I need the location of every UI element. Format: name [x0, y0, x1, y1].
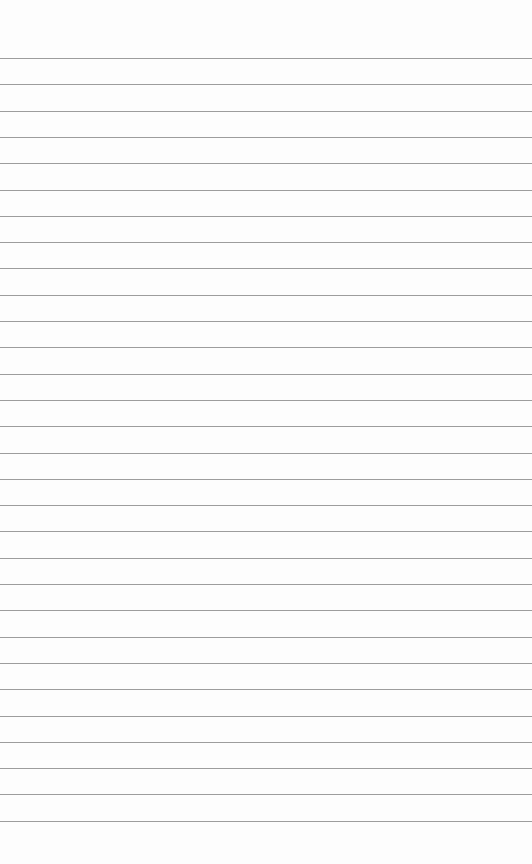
ruled-line: [0, 374, 532, 375]
ruled-line: [0, 426, 532, 427]
ruled-line: [0, 768, 532, 769]
ruled-line: [0, 268, 532, 269]
ruled-line: [0, 216, 532, 217]
ruled-line: [0, 716, 532, 717]
ruled-line: [0, 190, 532, 191]
ruled-line: [0, 584, 532, 585]
ruled-line: [0, 558, 532, 559]
ruled-line: [0, 400, 532, 401]
ruled-line: [0, 84, 532, 85]
ruled-line: [0, 137, 532, 138]
ruled-line: [0, 794, 532, 795]
ruled-line: [0, 453, 532, 454]
ruled-line: [0, 242, 532, 243]
ruled-line: [0, 295, 532, 296]
lined-paper-sheet: [0, 0, 532, 864]
ruled-line: [0, 347, 532, 348]
ruled-line: [0, 321, 532, 322]
ruled-line: [0, 505, 532, 506]
ruled-line: [0, 163, 532, 164]
ruled-line: [0, 111, 532, 112]
ruled-line: [0, 531, 532, 532]
ruled-line: [0, 821, 532, 822]
ruled-line: [0, 58, 532, 59]
ruled-line: [0, 742, 532, 743]
ruled-line: [0, 610, 532, 611]
ruled-line: [0, 637, 532, 638]
ruled-line: [0, 663, 532, 664]
ruled-line: [0, 689, 532, 690]
ruled-line: [0, 479, 532, 480]
